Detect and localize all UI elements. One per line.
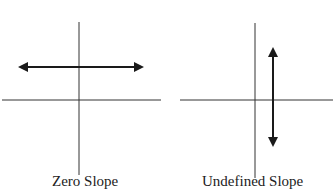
- zero-slope-label: Zero Slope: [52, 173, 118, 190]
- undefined-slope-label: Undefined Slope: [202, 173, 303, 190]
- zero-slope-diagram: [2, 22, 161, 175]
- slope-diagrams: [0, 0, 333, 192]
- undefined-slope-diagram: [180, 23, 333, 178]
